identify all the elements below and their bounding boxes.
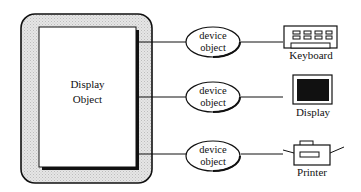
- keyboard-icon: [284, 26, 337, 48]
- device-object-label-line2: object: [186, 156, 240, 168]
- device-object-label: device object: [186, 85, 240, 109]
- device-object-label-line1: device: [186, 85, 240, 97]
- display-object-label: Display Object: [39, 78, 136, 105]
- device-object-label-line1: device: [186, 30, 240, 42]
- device-object-label-line2: object: [186, 97, 240, 109]
- display-label: Display: [285, 106, 341, 118]
- keyboard-label: Keyboard: [283, 49, 339, 61]
- printer-icon: [283, 141, 344, 165]
- display-object-label-line1: Display: [39, 78, 136, 90]
- device-object-label: device object: [186, 144, 240, 168]
- device-object-label: device object: [186, 30, 240, 54]
- device-object-label-line1: device: [186, 144, 240, 156]
- monitor-icon: [293, 75, 332, 104]
- printer-label: Printer: [284, 166, 340, 178]
- display-object-label-line2: Object: [39, 93, 136, 105]
- device-object-label-line2: object: [186, 42, 240, 54]
